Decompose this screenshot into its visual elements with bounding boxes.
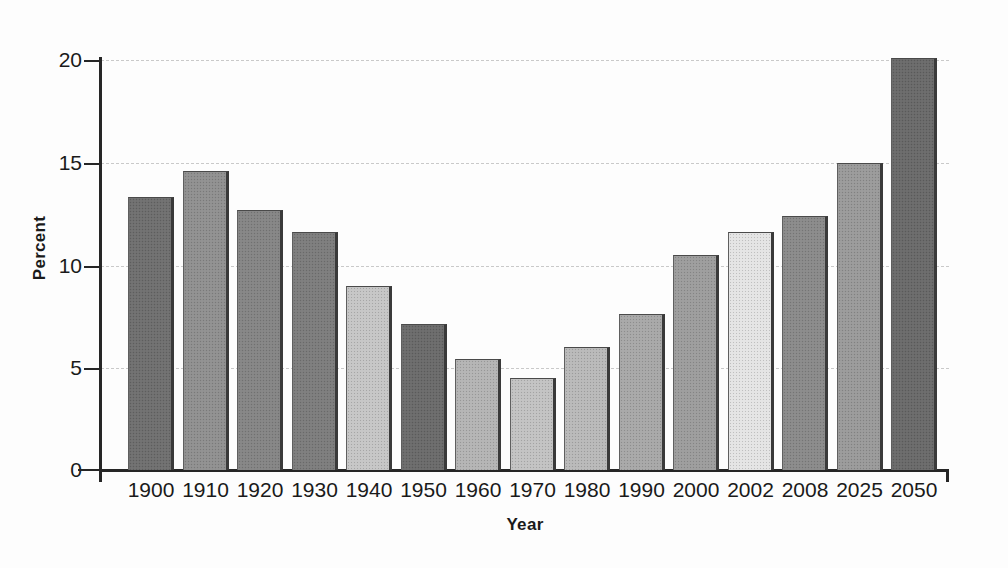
bar-rect-1940 (346, 286, 392, 471)
x-axis-tick-labels: 1900191019201930194019501960197019801990… (101, 478, 949, 510)
x-tick-label-1900: 1900 (123, 478, 179, 502)
x-tick-label-1930: 1930 (287, 478, 343, 502)
y-tick-mark-0 (78, 469, 101, 471)
bar-rect-1970 (510, 378, 556, 470)
x-tick-label-1960: 1960 (450, 478, 506, 502)
bar-1920 (237, 210, 283, 470)
bar-rect-1920 (237, 210, 283, 470)
y-tick-label-15: 15 (26, 151, 82, 175)
bar-rect-1950 (401, 324, 447, 470)
bar-1930 (292, 232, 338, 470)
bar-1960 (455, 359, 501, 470)
x-tick-label-1990: 1990 (614, 478, 670, 502)
y-tick-mark-15 (84, 163, 100, 165)
bar-chart-figure: 20 15 10 5 0 190019101920193019401950196… (0, 0, 1008, 568)
bar-rect-2002 (728, 232, 774, 470)
bar-rect-1900 (128, 197, 174, 470)
x-tick-label-1950: 1950 (396, 478, 452, 502)
bar-1990 (619, 314, 665, 470)
bar-rect-2050 (891, 58, 937, 470)
y-tick-label-5: 5 (26, 356, 82, 380)
bar-rect-1960 (455, 359, 501, 470)
y-tick-mark-10 (84, 266, 100, 268)
x-tick-label-2050: 2050 (886, 478, 942, 502)
bar-2008 (782, 216, 828, 470)
x-axis-title: Year (101, 515, 949, 535)
bar-2000 (673, 255, 719, 470)
bar-1900 (128, 197, 174, 470)
bar-rect-2025 (837, 163, 883, 471)
x-tick-label-1910: 1910 (178, 478, 234, 502)
x-tick-label-2000: 2000 (668, 478, 724, 502)
bar-rect-1990 (619, 314, 665, 470)
bar-series (101, 60, 949, 470)
x-tick-label-1970: 1970 (505, 478, 561, 502)
bar-1910 (183, 171, 229, 470)
bar-2025 (837, 163, 883, 471)
bar-1950 (401, 324, 447, 470)
y-tick-label-0: 0 (26, 458, 82, 482)
bar-2050 (891, 58, 937, 470)
x-tick-label-2002: 2002 (723, 478, 779, 502)
bar-rect-2000 (673, 255, 719, 470)
bar-rect-1930 (292, 232, 338, 470)
bar-1970 (510, 378, 556, 470)
y-tick-mark-5 (84, 368, 100, 370)
plot-area (101, 60, 949, 470)
x-tick-label-1940: 1940 (341, 478, 397, 502)
y-tick-label-20: 20 (26, 48, 82, 72)
x-tick-label-2008: 2008 (777, 478, 833, 502)
x-tick-label-1980: 1980 (559, 478, 615, 502)
bar-rect-1910 (183, 171, 229, 470)
bar-rect-1980 (564, 347, 610, 470)
x-tick-label-1920: 1920 (232, 478, 288, 502)
bar-1980 (564, 347, 610, 470)
bar-2002 (728, 232, 774, 470)
bar-rect-2008 (782, 216, 828, 470)
x-tick-label-2025: 2025 (832, 478, 888, 502)
y-tick-mark-20 (84, 60, 100, 62)
y-axis-title: Percent (30, 188, 50, 308)
bar-1940 (346, 286, 392, 471)
